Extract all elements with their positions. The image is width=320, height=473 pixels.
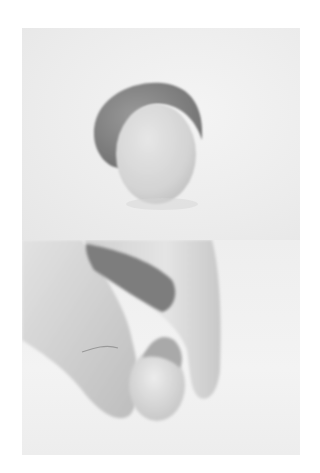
photo-bottom-hand-wrapping-clay: [22, 240, 300, 455]
clay-shadow: [126, 198, 198, 210]
photo-top-scene: [22, 28, 300, 240]
light-clay-ball: [116, 104, 196, 204]
photo-bottom-scene: [22, 240, 300, 455]
photo-top-clay-pieces: [22, 28, 300, 240]
